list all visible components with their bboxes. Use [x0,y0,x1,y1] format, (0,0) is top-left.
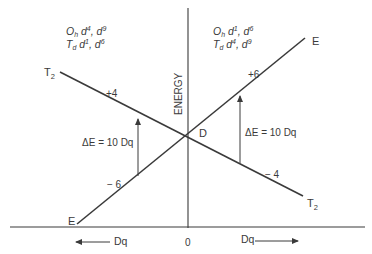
e-right-value: +6 [248,69,260,80]
e-right-label: E [312,35,319,47]
origin-label: 0 [185,237,191,248]
t2-right-label: T2 [307,197,318,212]
left-config-oh: Oh d4, d9 [66,25,106,38]
t2-left-value: +4 [106,88,118,99]
left-config-td: Td d1, d6 [66,38,105,51]
right-config-oh: Oh d1, d6 [213,25,253,38]
splitting-label-right: ΔE = 10 Dq [245,127,296,138]
e-left-label: E [68,215,75,227]
dq-right-label: Dq [241,233,255,245]
dq-left-label: Dq [114,235,128,247]
t2-right-value: − 4 [265,169,280,180]
t2-left-label: T2 [44,66,55,81]
splitting-label-left: ΔE = 10 Dq [82,137,133,148]
energy-axis-label: ENERGY [173,72,184,115]
d-term-label: D [199,127,207,139]
splitting-diagram: Oh d4, d9 Td d1, d6 Oh d1, d6 Td d4, d9 … [0,0,372,254]
e-left-value: − 6 [107,179,122,190]
right-config-td: Td d4, d9 [213,38,252,51]
